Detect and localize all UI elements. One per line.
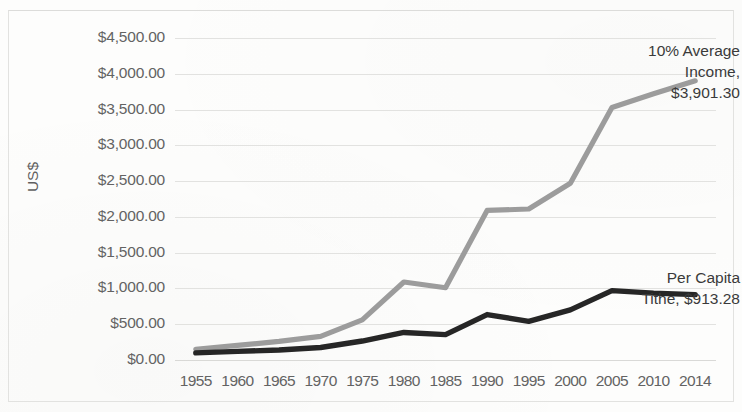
x-tick-label: 1980	[383, 372, 425, 390]
y-tick-label: $1,000.00	[47, 278, 165, 296]
x-tick-label: 2010	[633, 372, 675, 390]
income-annotation: 10% Average Income, $3,901.30	[556, 40, 742, 103]
x-tick-label: 1960	[217, 372, 259, 390]
line-income	[196, 81, 695, 349]
y-tick-label: $3,500.00	[47, 100, 165, 118]
x-tick-label: 2000	[549, 372, 591, 390]
x-tick-label: 1970	[300, 372, 342, 390]
x-tick-label: 1975	[341, 372, 383, 390]
y-tick-label: $4,000.00	[47, 64, 165, 82]
x-tick-label: 1955	[175, 372, 217, 390]
y-axis-tick-labels: $0.00$500.00$1,000.00$1,500.00$2,000.00$…	[47, 38, 165, 360]
y-tick-label: $3,000.00	[47, 135, 165, 153]
y-tick-label: $500.00	[47, 314, 165, 332]
x-tick-label: 2014	[674, 372, 716, 390]
y-tick-label: $2,500.00	[47, 171, 165, 189]
chart-container: US$ $0.00$500.00$1,000.00$1,500.00$2,000…	[0, 0, 742, 412]
x-axis-tick-labels: 1955196019651970197519801985199019952000…	[175, 372, 716, 398]
y-tick-label: $0.00	[47, 350, 165, 368]
y-tick-label: $1,500.00	[47, 243, 165, 261]
gridline	[175, 360, 716, 361]
x-tick-label: 1990	[466, 372, 508, 390]
x-tick-label: 1985	[425, 372, 467, 390]
y-tick-label: $4,500.00	[47, 28, 165, 46]
y-axis-title: US$	[24, 142, 42, 212]
tithe-annotation: Per Capita Tithe, $913.28	[530, 267, 742, 309]
x-tick-label: 1965	[258, 372, 300, 390]
x-tick-label: 1995	[508, 372, 550, 390]
x-tick-label: 2005	[591, 372, 633, 390]
y-tick-label: $2,000.00	[47, 207, 165, 225]
